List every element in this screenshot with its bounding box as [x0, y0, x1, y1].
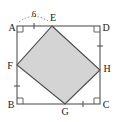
inner-square-efgh: [17, 26, 100, 104]
vertex-label-b: B: [8, 99, 15, 110]
geometry-canvas: 6 A D C B E H G F: [0, 0, 117, 122]
right-angle-marker-b: [17, 98, 23, 104]
right-angle-marker-a: [17, 26, 23, 32]
vertex-label-g: G: [61, 106, 68, 117]
right-angle-marker-c: [94, 98, 100, 104]
measure-label-6: 6: [32, 9, 37, 19]
vertex-label-d: D: [102, 22, 109, 33]
vertex-label-f: F: [7, 60, 13, 71]
vertex-label-a: A: [8, 22, 16, 33]
vertex-label-e: E: [50, 12, 56, 23]
vertex-label-c: C: [103, 99, 110, 110]
geometry-figure: 6 A D C B E H G F: [0, 0, 117, 122]
vertex-label-h: H: [103, 63, 110, 74]
right-angle-marker-d: [94, 26, 100, 32]
